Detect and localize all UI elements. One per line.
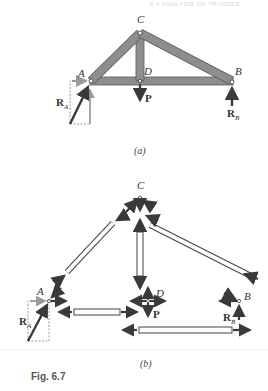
pin-C-b bbox=[138, 196, 142, 200]
pin-C bbox=[138, 31, 142, 35]
caption-b: (b) bbox=[140, 358, 152, 370]
joint-label-B: B bbox=[235, 65, 242, 77]
pin-D-b bbox=[147, 300, 150, 303]
joint-label-A-b: A bbox=[36, 285, 44, 297]
member-AD-b bbox=[59, 309, 137, 315]
figure-label: Fig. 6.7 bbox=[31, 371, 65, 382]
joint-label-A: A bbox=[77, 67, 85, 79]
joint-label-C-b: C bbox=[137, 179, 145, 191]
part-b-free-body: C bbox=[19, 179, 258, 370]
pin-A bbox=[89, 79, 93, 83]
caption-a: (a) bbox=[134, 145, 146, 157]
part-a-truss: C A D B P R A R B (a) bbox=[56, 13, 242, 157]
pin-D bbox=[138, 79, 141, 82]
reaction-label-RB-sub: B bbox=[235, 114, 240, 122]
pin-A-b bbox=[47, 299, 50, 302]
reaction-label-RA-sub: A bbox=[63, 103, 69, 111]
member-CB-b bbox=[147, 216, 258, 279]
member-AD-DB bbox=[90, 77, 233, 85]
figure-page: 6.4 ANALYSIS OF TRUSSES bbox=[0, 0, 268, 391]
joint-label-D: D bbox=[143, 65, 152, 77]
joint-label-C: C bbox=[137, 13, 145, 25]
joint-label-D-b: D bbox=[155, 287, 164, 299]
divider bbox=[0, 349, 268, 350]
member-DB-b bbox=[123, 327, 250, 333]
reaction-label-RB-sub-b: B bbox=[231, 318, 236, 326]
reaction-A-arrow bbox=[70, 87, 88, 124]
truss-diagram: C A D B P R A R B (a) C bbox=[0, 0, 268, 391]
load-label-P: P bbox=[145, 92, 152, 104]
reaction-label-RA-sub-b: A bbox=[26, 322, 32, 330]
member-CD-b bbox=[137, 220, 143, 288]
member-AC bbox=[91, 33, 140, 81]
pin-B-b bbox=[237, 299, 240, 302]
member-CB bbox=[140, 33, 232, 81]
load-label-P-b: P bbox=[153, 308, 160, 320]
member-AC-b bbox=[55, 215, 126, 283]
pin-B bbox=[230, 80, 234, 84]
joint-label-B-b: B bbox=[244, 290, 251, 302]
